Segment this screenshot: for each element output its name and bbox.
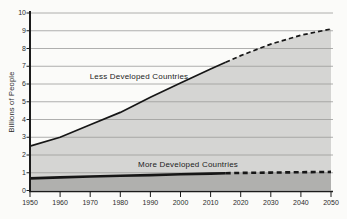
x-tick-label-2050: 2050 [318, 199, 344, 207]
x-tick-label-1960: 1960 [47, 199, 73, 207]
y-tick-label-1: 1 [8, 169, 26, 177]
chart-canvas [0, 0, 347, 219]
y-tick-label-6: 6 [8, 80, 26, 88]
x-tick-label-1950: 1950 [17, 199, 43, 207]
y-tick-label-8: 8 [8, 45, 26, 53]
y-tick-label-3: 3 [8, 133, 26, 141]
x-tick-label-2000: 2000 [168, 199, 194, 207]
y-tick-label-2: 2 [8, 151, 26, 159]
y-tick-label-7: 7 [8, 62, 26, 70]
more-developed-countries-label: More Developed Countries [138, 160, 238, 169]
less-developed-countries-label: Less Developed Countries [90, 72, 189, 81]
x-tick-label-2020: 2020 [228, 199, 254, 207]
y-tick-label-0: 0 [8, 187, 26, 195]
x-tick-label-2010: 2010 [198, 199, 224, 207]
x-tick-label-1990: 1990 [137, 199, 163, 207]
x-tick-label-1970: 1970 [77, 199, 103, 207]
y-tick-label-5: 5 [8, 98, 26, 106]
x-tick-label-1980: 1980 [107, 199, 133, 207]
y-tick-label-10: 10 [8, 9, 26, 17]
x-tick-label-2030: 2030 [258, 199, 284, 207]
y-tick-label-4: 4 [8, 116, 26, 124]
x-tick-label-2040: 2040 [288, 199, 314, 207]
population-growth-area-chart: Billions of People Less Developed Countr… [0, 0, 347, 219]
y-tick-label-9: 9 [8, 27, 26, 35]
less-developed-area [30, 29, 331, 178]
